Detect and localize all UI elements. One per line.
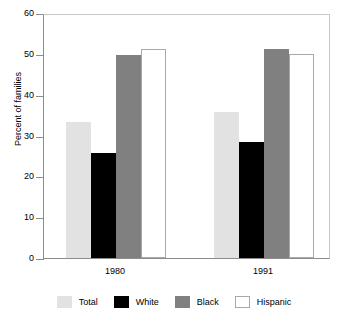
legend-label: White xyxy=(136,297,159,307)
x-axis-label-1980: 1980 xyxy=(90,266,140,276)
legend-item-total[interactable]: Total xyxy=(57,296,98,308)
bar-white-1980 xyxy=(91,153,116,258)
y-axis-tick-label: 0 xyxy=(4,254,34,263)
legend-swatch-white xyxy=(114,296,129,308)
y-axis-tick-label: 40 xyxy=(4,91,34,100)
y-axis-tick-label: 50 xyxy=(4,50,34,59)
clipped-title xyxy=(18,0,330,4)
bar-total-1991 xyxy=(214,112,239,258)
y-axis-title: Percent of families xyxy=(13,50,23,168)
legend-swatch-black xyxy=(175,296,190,308)
chart-legend: TotalWhiteBlackHispanic xyxy=(0,294,348,310)
y-axis-tick-label: 10 xyxy=(4,213,34,222)
y-axis-tick-label: 20 xyxy=(4,172,34,181)
legend-item-white[interactable]: White xyxy=(114,296,159,308)
legend-item-hispanic[interactable]: Hispanic xyxy=(235,296,292,308)
legend-swatch-total xyxy=(57,296,72,308)
y-axis-tick-label: 30 xyxy=(4,132,34,141)
plot-area xyxy=(43,14,330,259)
bar-black-1991 xyxy=(264,49,289,258)
bar-hispanic-1980 xyxy=(141,49,166,258)
bar-white-1991 xyxy=(239,142,264,258)
bar-total-1980 xyxy=(66,122,91,258)
x-axis-label-1991: 1991 xyxy=(238,266,288,276)
legend-item-black[interactable]: Black xyxy=(175,296,219,308)
y-axis-tick-label: 60 xyxy=(4,9,34,18)
y-axis-tick xyxy=(36,259,44,260)
legend-label: Hispanic xyxy=(257,297,292,307)
bar-hispanic-1991 xyxy=(289,54,314,258)
legend-swatch-hispanic xyxy=(235,296,250,308)
bar-chart: Percent of families 0102030405060 198019… xyxy=(0,0,348,317)
bar-black-1980 xyxy=(116,55,141,258)
bars-layer xyxy=(44,15,329,258)
legend-label: Total xyxy=(79,297,98,307)
legend-label: Black xyxy=(197,297,219,307)
